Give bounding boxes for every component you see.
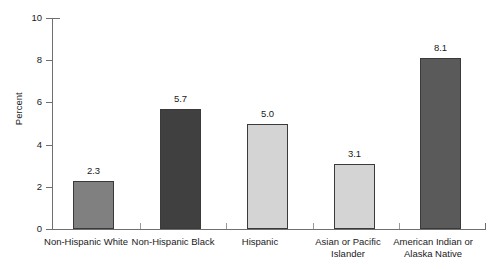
y-tick-label-8: 8 <box>16 55 42 65</box>
y-tick-label-0-wrap: 0 <box>16 224 42 234</box>
y-tick-10 <box>46 18 53 19</box>
category-label-line: American Indian or <box>372 236 493 248</box>
bar-asian-or-pacific-islander <box>334 164 375 229</box>
bar-chart: 10 8 6 4 2 0 Percent 2.3 5.7 5.0 <box>0 0 493 268</box>
y-tick-4 <box>46 145 53 146</box>
category-label-line: Alaska Native <box>372 248 493 260</box>
y-tick-label-8-wrap: 8 <box>16 55 42 65</box>
y-tick-label-0: 0 <box>16 224 42 234</box>
y-tick-6 <box>46 102 53 103</box>
category-label-american-indian-or-alaska-native: American Indian or Alaska Native <box>372 236 493 259</box>
y-tick-8 <box>46 60 53 61</box>
bar-value-asian-or-pacific-islander: 3.1 <box>334 149 375 159</box>
y-tick-label-10-wrap: 10 <box>16 13 42 23</box>
bar-value-non-hispanic-white: 2.3 <box>73 166 114 176</box>
y-tick-label-2-wrap: 2 <box>16 182 42 192</box>
bar-value-non-hispanic-black: 5.7 <box>160 94 201 104</box>
bar-group-asian-or-pacific-islander: 3.1 <box>334 18 375 229</box>
bar-value-american-indian-or-alaska-native: 8.1 <box>420 43 461 53</box>
bar-group-non-hispanic-black: 5.7 <box>160 18 201 229</box>
y-tick-label-10: 10 <box>16 13 42 23</box>
bar-non-hispanic-black <box>160 109 201 229</box>
y-tick-label-4: 4 <box>16 140 42 150</box>
bar-non-hispanic-white <box>73 181 114 230</box>
x-axis-line <box>52 229 486 230</box>
bar-group-hispanic: 5.0 <box>247 18 288 229</box>
y-axis-title: Percent <box>14 79 24 139</box>
bar-group-american-indian-or-alaska-native: 8.1 <box>420 18 461 229</box>
bar-american-indian-or-alaska-native <box>420 58 461 229</box>
bar-hispanic <box>247 124 288 230</box>
bar-value-hispanic: 5.0 <box>247 109 288 119</box>
y-tick-label-4-wrap: 4 <box>16 140 42 150</box>
y-tick-2 <box>46 187 53 188</box>
plot-area: 2.3 5.7 5.0 3.1 8.1 <box>53 18 486 229</box>
y-tick-label-2: 2 <box>16 182 42 192</box>
bar-group-non-hispanic-white: 2.3 <box>73 18 114 229</box>
